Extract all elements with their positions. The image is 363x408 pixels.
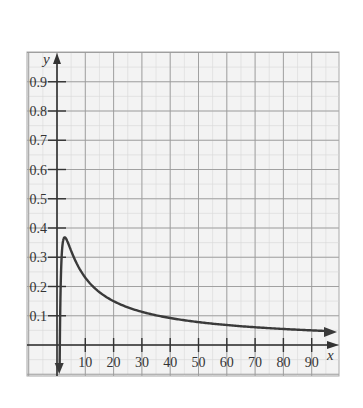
x-axis-label: x — [326, 347, 334, 363]
x-tick-label: 10 — [78, 355, 92, 370]
chart: xy 1020304050607080900.10.20.30.40.50.60… — [0, 0, 363, 408]
x-tick-label: 20 — [107, 355, 121, 370]
x-tick-label: 80 — [276, 355, 290, 370]
plot-frame — [27, 52, 339, 376]
x-tick-label: 60 — [220, 355, 234, 370]
y-tick-label: 0.7 — [30, 133, 48, 148]
y-tick-label: 0.1 — [30, 309, 48, 324]
y-tick-label: 0.2 — [30, 280, 48, 295]
y-tick-label: 0.8 — [30, 104, 48, 119]
x-tick-label: 40 — [163, 355, 177, 370]
x-tick-label: 90 — [305, 355, 319, 370]
y-tick-label: 0.4 — [30, 221, 48, 236]
y-tick-label: 0.5 — [30, 192, 48, 207]
x-tick-label: 30 — [135, 355, 149, 370]
y-tick-label: 0.3 — [30, 250, 48, 265]
plot-area — [27, 52, 339, 376]
y-tick-label: 0.9 — [30, 75, 48, 90]
x-tick-label: 70 — [248, 355, 262, 370]
y-axis-label: y — [41, 51, 50, 67]
x-tick-label: 50 — [192, 355, 206, 370]
y-tick-label: 0.6 — [30, 163, 48, 178]
